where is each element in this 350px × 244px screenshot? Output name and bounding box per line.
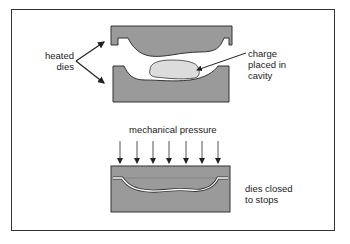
upper-die	[111, 26, 232, 56]
compression-molding-diagram	[0, 0, 350, 244]
pressure-arrows	[120, 141, 218, 163]
arrow-upper-die	[76, 42, 104, 61]
pressure-label: mechanical pressure	[129, 124, 217, 135]
arrow-lower-die	[76, 61, 104, 83]
closed-label: dies closedto stops	[245, 183, 293, 205]
heated-dies-label: heateddies	[44, 50, 74, 72]
charge-blob	[150, 60, 200, 79]
charge-label: chargeplaced incavity	[248, 48, 286, 81]
